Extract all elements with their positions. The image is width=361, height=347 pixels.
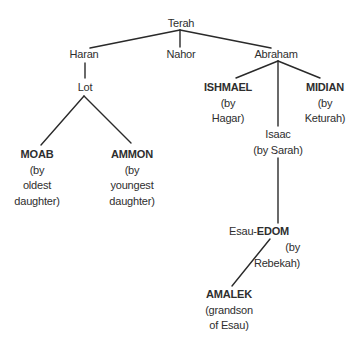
node-midian-line-2: Keturah) <box>305 111 346 127</box>
node-midian-name: MIDIAN <box>305 80 346 96</box>
node-abraham: Abraham <box>254 47 297 63</box>
node-ishmael-name: ISHMAEL <box>204 80 252 96</box>
edge-abraham-midian <box>278 61 320 78</box>
node-amalek: AMALEK (grandson of Esau) <box>205 287 253 334</box>
node-midian-line-1: (by <box>305 96 346 112</box>
node-midian: MIDIAN (by Keturah) <box>305 80 346 127</box>
edge-lot-moab <box>41 96 84 145</box>
node-terah-name: Terah <box>168 16 195 32</box>
node-moab-line-1: (by <box>14 163 59 179</box>
node-ammon-name: AMMON <box>109 147 154 163</box>
node-amalek-line-2: of Esau) <box>205 318 253 334</box>
node-esau-edom: Esau-EDOM <box>229 224 289 240</box>
node-esau-line-2: Rebekah) <box>254 256 300 272</box>
node-haran-name: Haran <box>70 47 99 63</box>
node-nahor-name: Nahor <box>167 47 196 63</box>
edge-abraham-ishmael <box>236 61 278 78</box>
node-terah: Terah <box>168 16 195 32</box>
node-ishmael-line-1: (by <box>204 96 252 112</box>
node-esau-name: EDOM <box>257 225 289 237</box>
node-haran: Haran <box>70 47 99 63</box>
node-isaac-line-1: (by Sarah) <box>253 143 302 159</box>
edge-terah-haran <box>90 30 180 48</box>
node-ammon-line-3: daughter) <box>109 194 154 210</box>
node-ishmael: ISHMAEL (by Hagar) <box>204 80 252 127</box>
node-amalek-line-1: (grandson <box>205 303 253 319</box>
edge-terah-abraham <box>180 30 271 48</box>
node-ammon-line-2: youngest <box>109 178 154 194</box>
node-nahor: Nahor <box>167 47 196 63</box>
node-abraham-name: Abraham <box>254 47 297 63</box>
node-esau-prefix: Esau- <box>229 225 257 237</box>
node-lot: Lot <box>78 80 93 96</box>
node-ammon-line-1: (by <box>109 163 154 179</box>
node-ishmael-line-2: Hagar) <box>204 111 252 127</box>
node-moab-line-3: daughter) <box>14 194 59 210</box>
node-esau-subtitle: (by Rebekah) <box>254 240 300 271</box>
node-isaac: Isaac (by Sarah) <box>253 127 302 158</box>
node-isaac-name: Isaac <box>253 127 302 143</box>
node-lot-name: Lot <box>78 80 93 96</box>
edge-lot-ammon <box>84 96 131 143</box>
node-moab-name: MOAB <box>14 147 59 163</box>
node-ammon: AMMON (by youngest daughter) <box>109 147 154 209</box>
node-amalek-name: AMALEK <box>205 287 253 303</box>
node-moab: MOAB (by oldest daughter) <box>14 147 59 209</box>
node-moab-line-2: oldest <box>14 178 59 194</box>
node-esau-line-1: (by <box>254 240 300 256</box>
